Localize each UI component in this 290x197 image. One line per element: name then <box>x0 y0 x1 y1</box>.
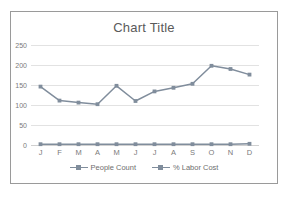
chart-title[interactable]: Chart Title <box>11 20 277 35</box>
legend-item[interactable]: People Count <box>70 163 136 172</box>
x-axis-tick-label: J <box>153 148 157 157</box>
x-axis-tick-label: A <box>95 148 100 157</box>
data-point-marker[interactable] <box>248 142 252 146</box>
x-axis-tick-label: O <box>209 148 215 157</box>
data-point-marker[interactable] <box>172 86 176 90</box>
legend-label: People Count <box>91 163 136 172</box>
legend-marker-icon <box>152 164 170 171</box>
x-axis-tick-label: M <box>75 148 81 157</box>
data-point-marker[interactable] <box>115 84 119 88</box>
y-axis-tick-label: 100 <box>15 102 27 109</box>
y-axis-tick-label: 50 <box>19 122 27 129</box>
legend-item[interactable]: % Labor Cost <box>152 163 218 172</box>
x-axis-tick-label: N <box>228 148 233 157</box>
data-point-marker[interactable] <box>210 64 214 68</box>
data-point-marker[interactable] <box>153 142 157 146</box>
x-axis-tick-label: S <box>190 148 195 157</box>
x-axis-tick-label: M <box>113 148 119 157</box>
y-axis-tick-label: 0 <box>23 142 27 149</box>
data-point-marker[interactable] <box>39 85 43 89</box>
x-axis-tick-label: J <box>134 148 138 157</box>
legend-marker-icon <box>70 164 88 171</box>
y-axis-tick-label: 150 <box>15 82 27 89</box>
data-point-marker[interactable] <box>134 99 138 103</box>
data-point-marker[interactable] <box>96 142 100 146</box>
data-point-marker[interactable] <box>39 142 43 146</box>
x-axis-tick-label: A <box>171 148 176 157</box>
data-point-marker[interactable] <box>153 90 157 94</box>
y-axis-tick-label: 200 <box>15 62 27 69</box>
data-point-marker[interactable] <box>134 142 138 146</box>
data-point-marker[interactable] <box>210 142 214 146</box>
chart-legend[interactable]: People Count% Labor Cost <box>11 163 277 172</box>
data-point-marker[interactable] <box>58 99 62 103</box>
data-point-marker[interactable] <box>77 142 81 146</box>
y-axis-tick-label: 250 <box>15 42 27 49</box>
series-line[interactable] <box>41 66 250 104</box>
x-axis-tick-label: J <box>39 148 43 157</box>
data-point-marker[interactable] <box>115 142 119 146</box>
data-point-marker[interactable] <box>229 67 233 71</box>
data-point-marker[interactable] <box>248 73 252 77</box>
data-point-marker[interactable] <box>172 142 176 146</box>
data-point-marker[interactable] <box>96 102 100 106</box>
x-axis-tick-label: D <box>247 148 252 157</box>
chart-container[interactable]: Chart Title 050100150200250 People Count… <box>10 11 278 184</box>
data-point-marker[interactable] <box>191 82 195 86</box>
series-layer <box>31 45 259 145</box>
data-point-marker[interactable] <box>58 142 62 146</box>
data-point-marker[interactable] <box>229 142 233 146</box>
x-axis-tick-label: F <box>57 148 62 157</box>
legend-label: % Labor Cost <box>173 163 218 172</box>
data-point-marker[interactable] <box>191 142 195 146</box>
data-point-marker[interactable] <box>77 101 81 105</box>
x-axis-line <box>31 145 259 146</box>
